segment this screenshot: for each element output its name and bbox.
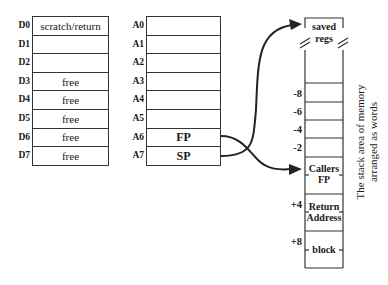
offset-minus-2: -2 <box>280 142 302 153</box>
stack-saved-label: saved <box>305 21 343 32</box>
stack-caption-line2: arranged as words <box>367 72 380 212</box>
callers-fp-label-1: Callers <box>305 163 343 174</box>
offset-plus-8: +8 <box>280 236 302 247</box>
return-address-label-1: Return <box>305 201 343 212</box>
offset-minus-8: -8 <box>280 88 302 99</box>
stack-outline <box>300 18 348 268</box>
stack-caption: The stack area of memory arranged as wor… <box>354 72 380 212</box>
offset-plus-4: +4 <box>280 199 302 210</box>
fp-arrowhead <box>289 164 302 175</box>
sp-arrowhead <box>289 19 302 30</box>
offset-minus-4: -4 <box>280 124 302 135</box>
block-label: block <box>305 244 343 255</box>
callers-fp-label-2: FP <box>305 174 343 185</box>
return-address-label-2: Address <box>305 212 343 223</box>
stack-regs-label: regs <box>305 33 343 44</box>
stack-caption-line1: The stack area of memory <box>354 72 367 212</box>
offset-minus-6: -6 <box>280 106 302 117</box>
